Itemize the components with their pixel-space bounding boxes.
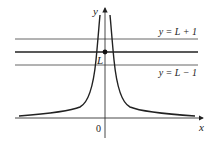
lower-line-label: y = L − 1 bbox=[158, 67, 197, 78]
L-label: L bbox=[96, 54, 103, 66]
limit-point bbox=[103, 50, 108, 55]
x-axis-label: x bbox=[198, 121, 204, 133]
limit-diagram: y x 0 L y = L + 1 y = L − 1 bbox=[0, 0, 215, 146]
origin-label: 0 bbox=[96, 123, 101, 134]
upper-line-label: y = L + 1 bbox=[158, 26, 197, 37]
y-axis-label: y bbox=[92, 5, 98, 17]
